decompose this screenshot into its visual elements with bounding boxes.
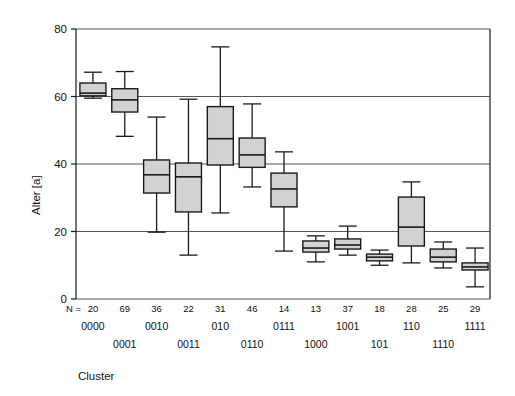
n-value-0000: 20 <box>88 303 99 314</box>
cluster-label-0011: 0011 <box>177 338 200 350</box>
figure-background <box>0 0 515 396</box>
n-value-1111: 29 <box>470 303 481 314</box>
y-tick-label-40: 40 <box>54 158 67 170</box>
cluster-label-1001: 1001 <box>336 320 360 332</box>
cluster-label-1000: 1000 <box>304 338 328 350</box>
box-iqr <box>144 160 170 193</box>
cluster-label-0001: 0001 <box>113 338 137 350</box>
n-value-1110: 25 <box>438 303 449 314</box>
n-value-110: 28 <box>406 303 417 314</box>
cluster-label-0010: 0010 <box>145 320 169 332</box>
n-value-0011: 22 <box>183 303 194 314</box>
box-iqr <box>175 163 201 212</box>
y-tick-label-60: 60 <box>54 91 67 103</box>
n-value-101: 18 <box>374 303 385 314</box>
box-iqr <box>335 239 361 249</box>
boxplot-figure: 020406080 N =20693622314614133718282529 … <box>0 0 515 396</box>
box-iqr <box>398 197 424 246</box>
box-iqr <box>303 241 329 252</box>
n-value-1000: 13 <box>311 303 322 314</box>
n-value-010: 31 <box>215 303 226 314</box>
boxplot-svg: 020406080 N =20693622314614133718282529 … <box>0 0 515 396</box>
y-axis-title: Alter [a] <box>30 175 42 215</box>
box-iqr <box>239 138 265 167</box>
cluster-label-1110: 1110 <box>432 338 454 350</box>
cluster-label-101: 101 <box>371 338 389 350</box>
n-value-0010: 36 <box>151 303 162 314</box>
y-tick-label-20: 20 <box>54 226 67 238</box>
n-value-0001: 69 <box>119 303 130 314</box>
cluster-label-0000: 0000 <box>81 320 105 332</box>
cluster-label-110: 110 <box>403 320 420 332</box>
n-value-0110: 46 <box>247 303 258 314</box>
n-value-0111: 14 <box>279 303 290 314</box>
box-iqr <box>271 173 297 207</box>
cluster-label-0111: 0111 <box>273 320 295 332</box>
x-axis-title: Cluster <box>78 370 115 382</box>
cluster-label-010: 010 <box>212 320 230 332</box>
box-iqr <box>207 107 233 165</box>
n-prefix-label: N = <box>66 303 82 314</box>
box-iqr <box>430 249 456 262</box>
y-tick-label-80: 80 <box>54 23 67 35</box>
cluster-label-1111: 1111 <box>465 320 486 332</box>
cluster-label-0110: 0110 <box>241 338 264 350</box>
n-value-1001: 37 <box>342 303 353 314</box>
